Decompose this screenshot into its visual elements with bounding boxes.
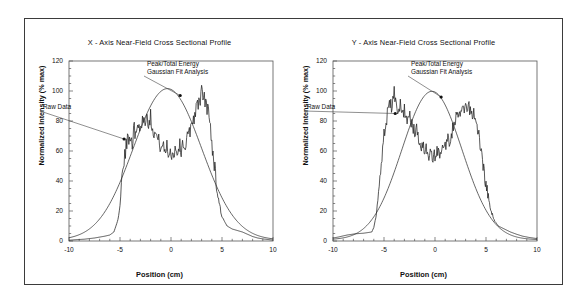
- annotation-leader-line: [144, 76, 180, 96]
- y-tick-label: 40: [56, 177, 64, 184]
- x-tick-label: -5: [381, 246, 387, 253]
- annotation-marker: [440, 95, 443, 98]
- x-tick-label: 10: [533, 246, 541, 253]
- y-tick-label: 100: [52, 87, 63, 94]
- figure-frame: X - Axis Near-Field Cross Sectional Prof…: [24, 18, 563, 285]
- annotation-label: Peak/Total Energy: [147, 60, 200, 68]
- y-tick-label: 20: [320, 207, 328, 214]
- plot-area-y: -10-50510020406080100120Raw DataPeak/Tot…: [289, 19, 558, 286]
- y-tick-label: 40: [320, 177, 328, 184]
- annotation-marker: [394, 112, 397, 115]
- plot-area-x: -10-50510020406080100120Raw DataPeak/Tot…: [25, 19, 294, 286]
- annotation-label: Gaussian Fit Analysis: [411, 68, 472, 76]
- x-tick-label: 5: [484, 246, 488, 253]
- y-tick-label: 20: [56, 207, 64, 214]
- y-tick-label: 120: [316, 57, 327, 64]
- x-axis-label: Position (cm): [289, 270, 558, 279]
- x-tick-label: 5: [220, 246, 224, 253]
- x-axis-label: Position (cm): [25, 270, 294, 279]
- y-tick-label: 0: [59, 237, 63, 244]
- x-tick-label: -10: [328, 246, 338, 253]
- annotation-marker: [122, 137, 125, 140]
- x-tick-label: 0: [433, 246, 437, 253]
- raw-data-curve: [69, 85, 273, 240]
- annotation-marker: [179, 94, 182, 97]
- raw-data-curve: [333, 86, 537, 238]
- annotation-label: Gaussian Fit Analysis: [147, 68, 208, 76]
- annotation-leader-line: [40, 111, 124, 139]
- plot-frame: [69, 61, 273, 241]
- gaussian-fit-curve: [69, 89, 273, 239]
- chart-panel-x-axis: X - Axis Near-Field Cross Sectional Prof…: [25, 19, 294, 286]
- x-tick-label: -10: [64, 246, 74, 253]
- x-tick-label: 10: [269, 246, 277, 253]
- annotation-label: Raw Data: [307, 103, 336, 110]
- x-tick-label: -5: [117, 246, 123, 253]
- y-tick-label: 60: [56, 147, 64, 154]
- annotation-label: Raw Data: [43, 103, 72, 110]
- annotation-leader-line: [304, 111, 395, 114]
- y-tick-label: 0: [323, 237, 327, 244]
- x-tick-label: 0: [169, 246, 173, 253]
- y-tick-label: 120: [52, 57, 63, 64]
- annotation-label: Peak/Total Energy: [411, 60, 464, 68]
- chart-panel-y-axis: Y - Axis Near-Field Cross Sectional Prof…: [289, 19, 558, 286]
- y-tick-label: 60: [320, 147, 328, 154]
- plot-frame: [333, 61, 537, 241]
- y-tick-label: 100: [316, 87, 327, 94]
- gaussian-fit-curve: [333, 91, 537, 239]
- annotation-leader-line: [408, 76, 441, 97]
- y-tick-label: 80: [320, 117, 328, 124]
